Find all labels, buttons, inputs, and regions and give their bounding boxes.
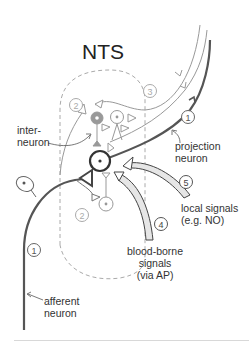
afferent-nucleus	[23, 182, 26, 185]
pathway-3-arrow	[175, 70, 182, 76]
interneuron-terminal	[93, 141, 101, 146]
afferent-pointer	[28, 294, 43, 300]
bottom-divider	[14, 340, 249, 341]
svg-text:3: 3	[147, 87, 152, 97]
marker-5: 5	[180, 176, 193, 189]
synapse-triangle	[128, 114, 136, 122]
neuron-2-bottom-nucleus	[105, 203, 108, 206]
afferent-terminal	[80, 170, 92, 186]
svg-text:1: 1	[185, 113, 190, 123]
projection-axon-arrow	[189, 97, 195, 103]
afferent-cell-link	[31, 190, 36, 197]
marker-2-top: 2	[70, 99, 83, 112]
marker-2-bottom: 2	[76, 209, 89, 222]
neuron-2-top-nucleus	[116, 116, 119, 119]
interneuron-label: inter- neuron	[17, 124, 50, 148]
blood-borne-band	[118, 175, 153, 240]
marker-4: 4	[155, 218, 168, 231]
svg-text:5: 5	[183, 178, 188, 188]
svg-text:2: 2	[73, 101, 78, 111]
svg-text:4: 4	[158, 220, 163, 230]
svg-text:1: 1	[31, 246, 36, 256]
marker-3: 3	[144, 85, 157, 98]
local-signals-tip	[123, 157, 133, 170]
pathway-3-line-inner	[110, 30, 207, 142]
blood-borne-signals-label: blood-borne signals (via AP)	[127, 245, 183, 281]
synapse-triangle	[95, 100, 103, 108]
local-signals-label: local signals (e.g. NO)	[181, 202, 238, 226]
svg-text:2: 2	[79, 211, 84, 221]
interneuron-input-line	[60, 113, 82, 175]
projection-neuron-nucleus	[98, 159, 101, 162]
synapse-triangle	[102, 173, 110, 178]
synapse-triangle	[121, 125, 129, 132]
nts-diagram: 1 1 2 2 3 4 5	[0, 0, 249, 342]
marker-1-projection: 1	[182, 111, 195, 124]
synapse-triangle	[92, 194, 100, 201]
projection-neuron-label: projection neuron	[175, 140, 221, 164]
synapse-triangle	[108, 143, 114, 152]
interneuron-nucleus	[95, 116, 99, 120]
diagram-title: NTS	[82, 40, 124, 64]
synapse-triangle	[102, 124, 110, 131]
marker-1-afferent: 1	[28, 244, 41, 257]
afferent-neuron-label: afferent neuron	[44, 295, 79, 319]
